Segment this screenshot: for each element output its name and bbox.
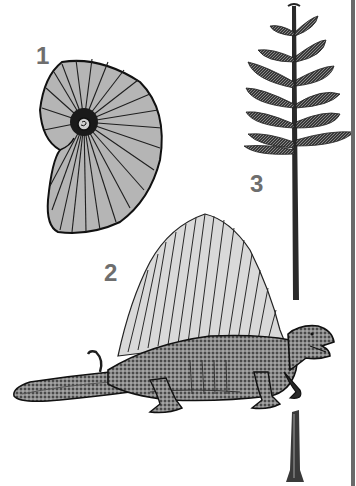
label-3: 3: [250, 172, 263, 196]
dimetrodon: [14, 214, 334, 413]
conifer-tree: [244, 4, 354, 482]
illustration-figure: 1 2 3: [0, 0, 356, 486]
illustration-canvas: [0, 0, 356, 486]
page-edge-bar: [351, 0, 355, 486]
label-2: 2: [104, 261, 117, 285]
ammonite-shell: [40, 59, 162, 233]
label-1: 1: [36, 44, 49, 68]
